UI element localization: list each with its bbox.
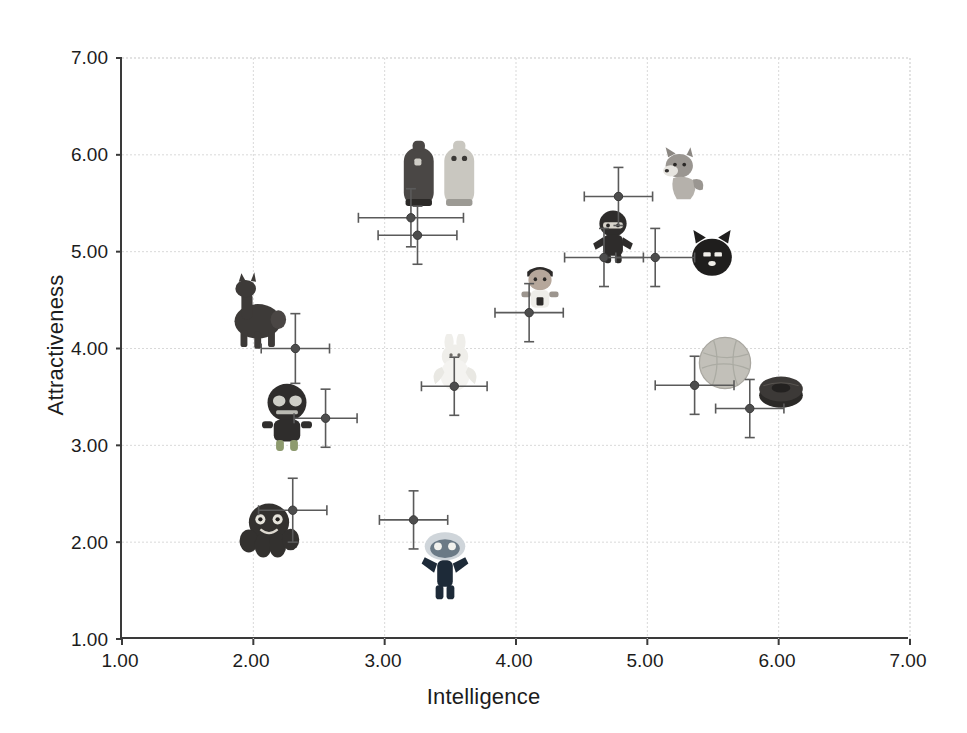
y-tick-label-4: 4.00	[0, 338, 108, 360]
marker-black-cat[interactable]	[651, 253, 659, 261]
y-tick-label-3: 3.00	[0, 435, 108, 457]
marker-ninja-doll[interactable]	[600, 253, 608, 261]
data-point-black-cat[interactable]	[616, 228, 695, 286]
y-tick-label-5: 5.00	[0, 241, 108, 263]
data-point-octopus[interactable]	[259, 478, 327, 542]
x-tick-label-6: 6.00	[737, 650, 817, 672]
y-tick-label-6: 6.00	[0, 144, 108, 166]
marker-yarn-ball[interactable]	[690, 381, 698, 389]
x-tick-label-3: 3.00	[343, 650, 423, 672]
data-point-zombie-doll[interactable]	[294, 389, 357, 447]
y-tick-label-2: 2.00	[0, 532, 108, 554]
marker-alpaca[interactable]	[291, 344, 299, 352]
data-point-layer	[122, 58, 910, 639]
scatter-plot-figure: Attractiveness Intelligence 7.00 6.00 5.…	[0, 0, 967, 733]
y-tick-label-7: 7.00	[0, 47, 108, 69]
x-tick-label-1: 1.00	[80, 650, 160, 672]
data-point-angel-bunny[interactable]	[421, 357, 487, 415]
data-point-dark-bottle[interactable]	[358, 189, 463, 247]
marker-zombie-doll[interactable]	[321, 414, 329, 422]
x-tick-label-7: 7.00	[868, 650, 948, 672]
data-point-donut-cushion[interactable]	[716, 379, 784, 437]
marker-dark-bottle[interactable]	[407, 214, 415, 222]
marker-husky-dog[interactable]	[614, 192, 622, 200]
x-axis-title: Intelligence	[0, 684, 967, 710]
x-tick-label-4: 4.00	[474, 650, 554, 672]
data-point-husky-dog[interactable]	[584, 167, 652, 225]
marker-angel-bunny[interactable]	[450, 382, 458, 390]
x-tick-label-2: 2.00	[211, 650, 291, 672]
data-point-light-bottle[interactable]	[378, 206, 457, 264]
y-tick-label-1: 1.00	[0, 629, 108, 651]
marker-octopus[interactable]	[289, 506, 297, 514]
data-point-astronaut-doll[interactable]	[495, 284, 563, 342]
x-tick-label-5: 5.00	[605, 650, 685, 672]
marker-light-bottle[interactable]	[413, 231, 421, 239]
data-point-yarn-ball[interactable]	[655, 356, 734, 414]
plot-area	[120, 58, 908, 639]
marker-blue-monster[interactable]	[409, 516, 417, 524]
marker-donut-cushion[interactable]	[746, 404, 754, 412]
data-point-alpaca[interactable]	[261, 314, 329, 384]
marker-astronaut-doll[interactable]	[525, 308, 533, 316]
data-point-blue-monster[interactable]	[379, 491, 447, 549]
